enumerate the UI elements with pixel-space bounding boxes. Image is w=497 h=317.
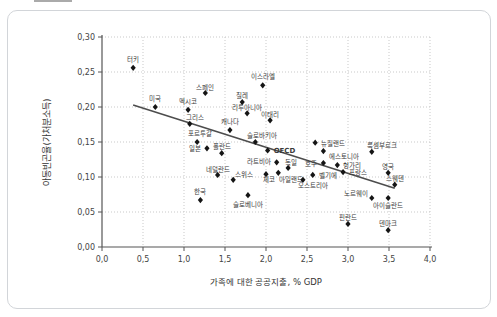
- y-tick-label: 0,30: [77, 33, 95, 42]
- point-label: 네덜란드: [206, 165, 230, 174]
- y-tick-label: 0,20: [77, 103, 95, 112]
- point-label: OECD: [274, 147, 296, 155]
- point-label: 호주: [305, 160, 317, 168]
- x-tick-label: 3,0: [342, 255, 355, 264]
- point-label: 에스토니아: [329, 152, 359, 161]
- point-label: 덴마크: [379, 219, 397, 228]
- scatter-chart: 0,00,51,01,52,02,53,03,54,00,000,050,100…: [0, 0, 497, 317]
- data-point: [274, 159, 279, 165]
- point-label: 캐나다: [221, 117, 239, 126]
- point-label: 벨기에: [319, 171, 337, 180]
- data-point: [310, 172, 315, 178]
- data-point: [195, 139, 200, 145]
- data-point: [260, 82, 265, 88]
- data-point: [321, 148, 326, 154]
- x-tick-label: 3,5: [383, 255, 396, 264]
- x-tick-label: 2,5: [301, 255, 314, 264]
- point-label: 노르웨이: [344, 189, 368, 198]
- point-label: 한국: [194, 188, 206, 196]
- point-label: 이스라엘: [251, 72, 275, 81]
- point-label: 슬로베니아: [233, 200, 263, 209]
- x-tick-label: 4,0: [424, 255, 437, 264]
- data-point: [204, 145, 209, 151]
- point-label: 미국: [149, 94, 161, 103]
- y-tick-label: 0,15: [77, 138, 95, 147]
- point-label: 영국: [382, 162, 394, 171]
- y-tick-label: 0,05: [77, 208, 95, 217]
- point-label: 라트비아: [247, 157, 271, 166]
- y-tick-label: 0,10: [77, 173, 95, 182]
- point-label: 슬로바키아: [247, 131, 277, 140]
- point-label: 일본: [189, 144, 201, 153]
- x-axis-title: 가족에 대한 공공지출, % GDP: [210, 277, 322, 287]
- point-label: 아이슬란드: [373, 201, 403, 210]
- y-tick-label: 0,25: [77, 68, 95, 77]
- point-label: 스페인: [196, 83, 214, 92]
- point-label: 칠레: [236, 91, 248, 100]
- data-point: [369, 195, 374, 201]
- data-point: [131, 65, 136, 71]
- point-label: 이태리: [261, 110, 279, 119]
- point-label: 리투아니아: [232, 103, 262, 112]
- point-label: 룩셈부르크: [367, 141, 397, 150]
- point-label: 독일: [285, 158, 297, 167]
- data-point: [335, 162, 340, 168]
- point-label: 폴란드: [213, 143, 231, 151]
- y-tick-label: 0,00: [77, 243, 95, 252]
- point-label: 포르투갈: [188, 130, 212, 138]
- data-point: [313, 140, 318, 146]
- data-point: [245, 192, 250, 198]
- point-label: 멕시코: [179, 97, 197, 106]
- x-tick-label: 2,0: [260, 255, 273, 264]
- point-label: 스위스: [235, 171, 253, 179]
- y-axis-title: 아동빈곤율(가처분소득): [41, 98, 52, 185]
- point-label: 핀란드: [339, 213, 357, 222]
- x-tick-label: 1,5: [219, 255, 232, 264]
- point-label: 체코: [263, 176, 275, 184]
- data-point: [198, 197, 203, 203]
- x-tick-label: 0,0: [96, 255, 109, 264]
- point-label: 그리스: [186, 113, 204, 122]
- x-tick-label: 1,0: [178, 255, 191, 264]
- data-point: [386, 195, 391, 201]
- point-label: 터키: [127, 55, 139, 64]
- point-label: 스웨덴: [386, 174, 404, 183]
- point-label: 프랑스: [349, 169, 367, 177]
- point-label: 뉴질랜드: [321, 139, 345, 148]
- x-tick-label: 0,5: [137, 255, 150, 264]
- data-point: [186, 107, 191, 113]
- data-point: [227, 127, 232, 133]
- data-point: [153, 104, 158, 110]
- point-label: 오스트리아: [298, 181, 328, 190]
